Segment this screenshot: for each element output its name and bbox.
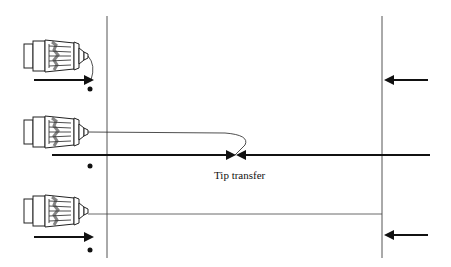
- particle-dot: [88, 87, 93, 92]
- tip-transfer-diagram: Tip transfer: [0, 0, 451, 267]
- particle-dot: [88, 248, 93, 253]
- panel-bottom: [24, 195, 428, 253]
- panel-top: [24, 40, 428, 92]
- fiber-loop: [88, 56, 93, 80]
- panel-middle: Tip transfer: [24, 116, 430, 181]
- tip-transfer-label: Tip transfer: [214, 169, 266, 181]
- fiber-loop: [88, 132, 246, 155]
- objective-lens-icon: [24, 195, 88, 227]
- particle-dot: [88, 164, 93, 169]
- objective-lens-icon: [24, 40, 88, 72]
- objective-lens-icon: [24, 116, 88, 148]
